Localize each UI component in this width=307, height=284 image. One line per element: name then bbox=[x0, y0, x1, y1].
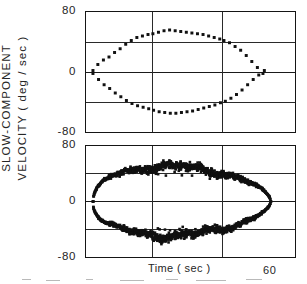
lower-plot-data-area bbox=[86, 146, 295, 257]
upper-scatter-svg bbox=[86, 12, 295, 132]
y-tick-bottom-panel-0: 0 bbox=[36, 194, 76, 206]
y-axis-label: SLOW-COMPONENT VELOCITY ( deg / sec ) bbox=[1, 0, 41, 233]
upper-plot-panel bbox=[85, 11, 296, 133]
scan-artifact bbox=[196, 280, 226, 281]
scan-artifact bbox=[246, 279, 262, 280]
scan-artifact bbox=[166, 279, 178, 280]
scan-artifact bbox=[46, 280, 60, 281]
scan-artifact bbox=[86, 279, 93, 280]
scan-artifact bbox=[120, 280, 144, 281]
x-axis-label: Time ( sec ) bbox=[148, 262, 210, 274]
lower-scatter-svg bbox=[86, 146, 295, 257]
y-tick-top-panel-80: 80 bbox=[36, 4, 76, 16]
x-tick-60: 60 bbox=[263, 264, 276, 276]
y-tick-bottom-panel-80: 80 bbox=[36, 138, 76, 150]
figure-slow-component-velocity: SLOW-COMPONENT VELOCITY ( deg / sec ) 80… bbox=[0, 0, 307, 284]
y-axis-label-line1: SLOW-COMPONENT bbox=[0, 0, 13, 233]
scan-artifact bbox=[22, 279, 31, 280]
upper-plot-data-area bbox=[86, 12, 295, 132]
y-tick-top-panel-0: 0 bbox=[36, 65, 76, 77]
y-axis-label-line2: VELOCITY ( deg / sec ) bbox=[16, 0, 29, 233]
y-tick-bottom-panel-minus80: -80 bbox=[36, 250, 76, 262]
lower-plot-panel bbox=[85, 145, 296, 258]
y-tick-top-panel-minus80: -80 bbox=[36, 125, 76, 137]
